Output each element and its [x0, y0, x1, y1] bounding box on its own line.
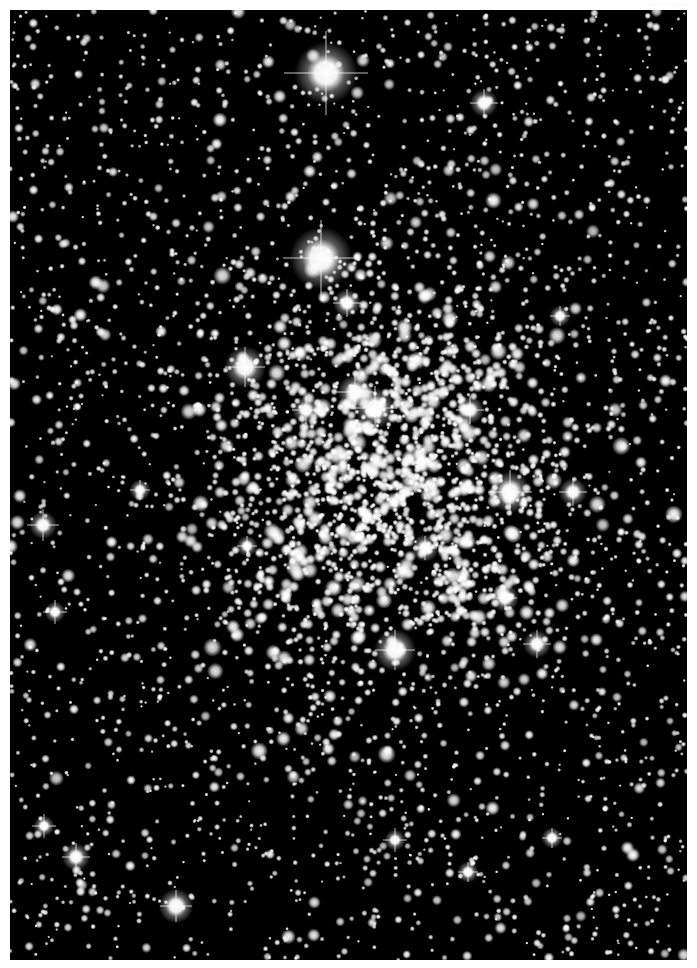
- star-field-image: [10, 10, 687, 960]
- star-field-canvas: [10, 10, 687, 960]
- image-caption: ··· ···· ·······: [648, 0, 687, 8]
